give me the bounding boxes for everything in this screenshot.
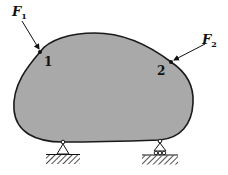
roller-support-right — [142, 139, 178, 164]
force-1-arrow — [22, 21, 39, 49]
point-2-label: 2 — [157, 64, 165, 78]
diagram-canvas: F1 F2 1 2 — [0, 0, 228, 175]
force-2-label: F2 — [201, 32, 217, 49]
force-1-label: F1 — [11, 4, 27, 21]
force-2-arrow — [174, 44, 205, 60]
pin-support-left — [46, 140, 80, 164]
point-2-marker — [169, 60, 173, 64]
point-1-marker — [38, 50, 42, 54]
rigid-body — [14, 33, 193, 142]
point-1-label: 1 — [44, 55, 52, 69]
